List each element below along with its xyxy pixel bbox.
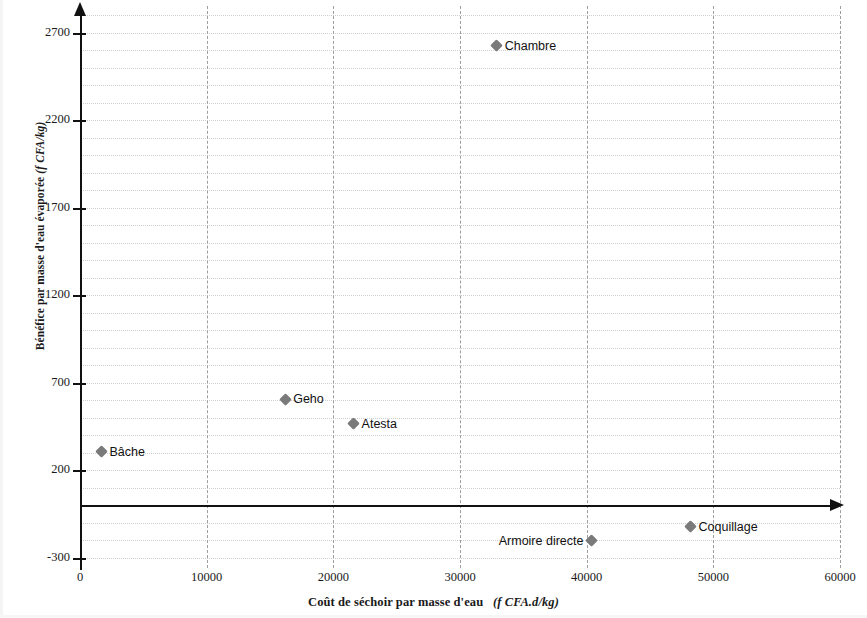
- x-axis-tick-label: 10000: [167, 570, 247, 585]
- y-axis-title-unit: (f CFA/kg): [34, 122, 46, 174]
- y-axis-tick-label: 200: [0, 462, 70, 477]
- y-axis-tick: [73, 208, 86, 210]
- data-point-label: Bâche: [110, 446, 145, 459]
- data-point-label: Atesta: [362, 418, 397, 431]
- scan-artifact-left: [0, 0, 3, 618]
- x-axis-tick-label: 40000: [547, 570, 627, 585]
- gridline-major-vertical: [587, 6, 588, 568]
- y-axis-tick: [73, 33, 86, 35]
- gridline-major-vertical: [840, 6, 841, 568]
- data-point-label: Coquillage: [699, 521, 758, 534]
- gridline-major-vertical: [333, 6, 334, 568]
- x-axis-title-main: Coût de séchoir par masse d'eau: [308, 595, 483, 609]
- y-axis-tick: [73, 120, 86, 122]
- y-axis-tick-label: -300: [0, 550, 70, 565]
- y-axis-tick: [73, 383, 86, 385]
- data-point-label: Chambre: [505, 40, 556, 53]
- y-axis-title-main: Bénéfice par masse d'eau évaporée: [34, 177, 46, 351]
- y-axis-title: Bénéfice par masse d'eau évaporée (f CFA…: [34, 26, 46, 446]
- x-axis-tick-label: 50000: [673, 570, 753, 585]
- x-axis-title: Coût de séchoir par masse d'eau (f CFA.d…: [0, 595, 867, 610]
- scatter-chart: 2700220017001200700200-30001000020000300…: [0, 0, 867, 618]
- gridline-major-vertical: [713, 6, 714, 568]
- plot-area: [80, 6, 840, 568]
- data-point-label: Armoire directe: [499, 535, 584, 548]
- gridline-major-vertical: [460, 6, 461, 568]
- x-axis-line: [80, 505, 832, 507]
- y-axis-tick: [73, 295, 86, 297]
- x-axis-tick-label: 20000: [293, 570, 373, 585]
- y-axis-arrow-icon: [74, 2, 86, 16]
- x-axis-arrow-icon: [830, 499, 844, 511]
- y-axis-tick: [73, 470, 86, 472]
- y-axis-line: [80, 14, 82, 570]
- gridline-major-vertical: [207, 6, 208, 568]
- x-axis-tick-label: 0: [40, 570, 120, 585]
- data-point-label: Geho: [293, 393, 324, 406]
- x-axis-tick-label: 30000: [420, 570, 500, 585]
- y-axis-tick: [73, 558, 86, 560]
- x-axis-title-unit: (f CFA.d/kg): [493, 595, 559, 609]
- x-axis-tick-label: 60000: [800, 570, 867, 585]
